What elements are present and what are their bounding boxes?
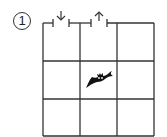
bat-icon xyxy=(86,71,113,88)
down-arrow-icon xyxy=(57,11,65,20)
up-arrow-icon xyxy=(95,12,103,21)
maze-grid xyxy=(0,0,167,137)
